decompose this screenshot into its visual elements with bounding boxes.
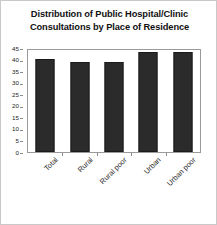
y-axis-tick-mark [20, 84, 23, 85]
y-axis-tick-label: 40 [12, 56, 19, 63]
y-axis-tick-label: 0 [16, 149, 19, 156]
bar-slot [166, 50, 200, 152]
y-axis-tick-mark [20, 118, 23, 119]
bar [36, 59, 55, 152]
x-axis-labels: TotalRuralRural poorUrbanUrban poor [28, 156, 200, 218]
y-axis-tick-mark [20, 141, 23, 142]
x-axis-tick-label: Rural [76, 156, 94, 174]
x-axis-tick-label: Total [43, 156, 60, 173]
bar-slot [62, 50, 96, 152]
chart-title: Distribution of Public Hospital/Clinic C… [13, 8, 206, 33]
y-axis-tick-mark [20, 49, 23, 50]
bar-slot [97, 50, 131, 152]
bar-series [28, 50, 200, 152]
y-axis-tick-mark [20, 61, 23, 62]
y-axis-tick-label: 15 [12, 114, 19, 121]
y-axis-tick-mark [20, 153, 23, 154]
bar [104, 62, 123, 152]
y-axis-tick-mark [20, 72, 23, 73]
y-axis-tick-mark [20, 107, 23, 108]
y-axis: 051015202530354045 [1, 49, 23, 153]
x-axis-tick-label: Rural poor [99, 156, 129, 186]
y-axis-tick-label: 25 [12, 91, 19, 98]
chart-title-line-1: Distribution of Public Hospital/Clinic [13, 8, 206, 21]
chart-title-line-2: Consultations by Place of Residence [13, 21, 206, 34]
x-axis-tick-label: Urban poor [166, 156, 198, 188]
chart-screenshot: Distribution of Public Hospital/Clinic C… [0, 0, 217, 225]
y-axis-tick-label: 35 [12, 68, 19, 75]
y-axis-tick-label: 30 [12, 79, 19, 86]
bar-slot [131, 50, 165, 152]
y-axis-tick-mark [20, 95, 23, 96]
bar-slot [28, 50, 62, 152]
bar [173, 52, 192, 152]
y-axis-tick-label: 5 [16, 137, 19, 144]
x-axis-tick-label: Urban [143, 156, 163, 176]
bar [70, 62, 89, 152]
y-axis-tick-label: 20 [12, 102, 19, 109]
bar [139, 52, 158, 152]
y-axis-tick-label: 45 [12, 45, 19, 52]
y-axis-tick-mark [20, 130, 23, 131]
y-axis-tick-label: 10 [12, 125, 19, 132]
